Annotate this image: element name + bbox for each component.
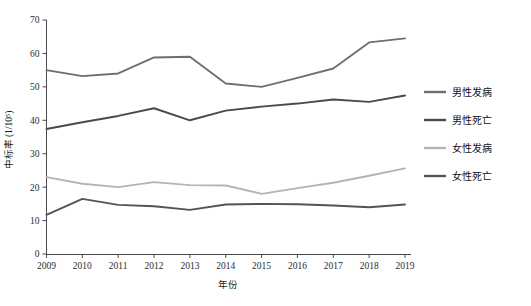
series-line-2 xyxy=(47,96,406,129)
series-line-1 xyxy=(47,38,406,86)
legend-label-1: 男性发病 xyxy=(452,86,492,98)
y-axis-title: 中标率 (1/10⁵) xyxy=(3,111,15,170)
legend-label-3: 女性发病 xyxy=(452,142,492,154)
y-tick-label: 20 xyxy=(30,183,40,193)
x-tick-label: 2010 xyxy=(73,261,92,271)
series-line-3 xyxy=(47,168,406,193)
y-axis: 010203040506070 中标率 (1/10⁵) xyxy=(3,15,47,259)
x-tick-label: 2013 xyxy=(180,261,199,271)
x-tick-label: 2014 xyxy=(216,261,235,271)
chart-legend: 男性发病男性死亡女性发病女性死亡 xyxy=(424,86,492,182)
y-tick-label: 60 xyxy=(30,49,40,59)
y-tick-label: 70 xyxy=(30,15,40,25)
x-axis: 2009201020112012201320142015201620172018… xyxy=(37,254,415,290)
legend-label-4: 女性死亡 xyxy=(452,170,492,182)
series-line-4 xyxy=(47,199,406,215)
x-tick-label: 2012 xyxy=(145,261,164,271)
y-tick-label: 10 xyxy=(30,216,40,226)
y-tick-label: 50 xyxy=(30,82,40,92)
x-tick-label: 2018 xyxy=(360,261,379,271)
y-tick-label: 30 xyxy=(30,149,40,159)
x-tick-label: 2017 xyxy=(324,261,343,271)
legend-label-2: 男性死亡 xyxy=(452,114,492,126)
y-tick-label: 0 xyxy=(35,249,40,259)
x-tick-label: 2015 xyxy=(252,261,271,271)
x-tick-label-group: 2009201020112012201320142015201620172018… xyxy=(37,261,415,271)
line-chart-figure: 010203040506070 中标率 (1/10⁵) 200920102011… xyxy=(0,0,531,306)
series-group xyxy=(47,38,406,215)
chart-svg: 010203040506070 中标率 (1/10⁵) 200920102011… xyxy=(0,0,531,306)
x-axis-title: 年份 xyxy=(218,279,238,290)
y-tick-label: 40 xyxy=(30,116,40,126)
x-tick-label: 2011 xyxy=(109,261,128,271)
x-tick-label: 2016 xyxy=(288,261,307,271)
y-tick-label-group: 010203040506070 xyxy=(30,15,40,259)
y-tick-group xyxy=(43,20,47,254)
x-tick-label: 2019 xyxy=(396,261,415,271)
x-tick-label: 2009 xyxy=(37,261,56,271)
